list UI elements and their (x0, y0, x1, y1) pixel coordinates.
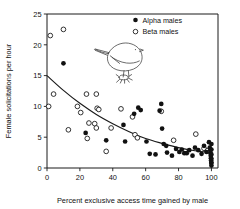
data-point (87, 121, 92, 126)
data-point (165, 150, 170, 155)
x-tick-label: 100 (205, 173, 217, 182)
data-point (170, 153, 175, 158)
data-point (132, 111, 137, 116)
chart-canvas: 020406080100 0510152025 Percent exclusiv… (0, 0, 240, 209)
data-point (199, 151, 204, 156)
data-point (83, 131, 88, 136)
tick-marks (44, 14, 212, 171)
data-point (157, 108, 162, 113)
y-tick-label: 10 (33, 102, 41, 111)
y-tick-label: 15 (33, 71, 41, 80)
data-point (104, 138, 109, 143)
x-tick-labels: 020406080100 (45, 173, 218, 182)
x-axis-title: Percent exclusive access time gained by … (57, 196, 208, 205)
data-point (138, 108, 143, 113)
chart-legend: Alpha males Beta males (133, 16, 182, 37)
legend-marker-beta-males (133, 29, 138, 34)
data-point (193, 132, 198, 137)
data-point (85, 136, 90, 141)
y-tick-labels: 0510152025 (33, 10, 41, 173)
data-point (209, 142, 214, 147)
data-point (209, 152, 214, 157)
data-point (94, 92, 99, 97)
data-point (66, 127, 71, 132)
data-point (135, 135, 140, 140)
y-tick-label: 25 (33, 10, 41, 19)
data-point (196, 148, 201, 153)
x-tick-label: 0 (45, 173, 49, 182)
data-point (159, 102, 164, 107)
bird-illustration-icon (95, 43, 144, 83)
data-point (94, 126, 99, 131)
data-point (109, 126, 114, 131)
trend-curve (47, 76, 211, 153)
legend-label-alpha-males: Alpha males (143, 16, 183, 25)
data-point (121, 123, 126, 128)
data-point (48, 33, 53, 38)
data-point (153, 152, 158, 157)
data-point (78, 110, 83, 115)
x-tick-label: 60 (142, 173, 150, 182)
data-point (209, 147, 214, 152)
data-point (190, 153, 195, 158)
y-tick-label: 0 (37, 164, 41, 173)
data-point (104, 149, 109, 154)
y-tick-label: 20 (33, 41, 41, 50)
data-point (61, 61, 66, 66)
data-point (160, 126, 165, 131)
data-point (96, 107, 101, 112)
data-point (164, 143, 169, 148)
data-point (147, 151, 152, 156)
data-point (61, 27, 66, 32)
x-tick-label: 20 (76, 173, 84, 182)
data-point (119, 107, 124, 112)
data-point (171, 138, 176, 143)
data-point (51, 92, 56, 97)
legend-marker-alpha-males (133, 18, 138, 23)
data-point (123, 139, 128, 144)
data-point (209, 163, 214, 168)
data-point (46, 104, 51, 109)
x-tick-label: 80 (174, 173, 182, 182)
y-tick-label: 5 (37, 133, 41, 142)
data-point (84, 92, 89, 97)
y-axis-title: Female solicitations per hour (4, 43, 13, 138)
data-points-alpha-males (61, 61, 214, 168)
data-point (187, 148, 192, 153)
legend-label-beta-males: Beta males (143, 27, 179, 36)
figure-scatter-plot: 020406080100 0510152025 Percent exclusiv… (0, 0, 240, 209)
data-point (144, 139, 149, 144)
x-tick-label: 40 (109, 173, 117, 182)
data-points-beta-males (46, 27, 209, 154)
axes-frame (47, 14, 218, 168)
data-point (202, 143, 207, 148)
data-point (75, 104, 80, 109)
